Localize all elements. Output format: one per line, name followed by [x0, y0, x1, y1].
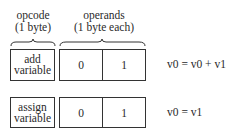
opcode-brace [10, 39, 56, 47]
opcode-box-add-variable: add variable [10, 49, 55, 81]
opcode-line2: variable [14, 65, 51, 76]
opcode-box-assign-variable: assign variable [10, 97, 55, 128]
operands-box: 0 1 [59, 97, 146, 128]
operands-header-size: (1 byte each) [62, 21, 146, 33]
operand-1: 1 [102, 50, 145, 80]
opcode-line1: assign [14, 102, 51, 113]
equation: v0 = v1 [167, 106, 202, 118]
equation: v0 = v0 + v1 [167, 58, 226, 70]
opcode-header-size: (1 byte) [6, 21, 60, 33]
opcode-header-label: opcode [6, 9, 60, 21]
operands-brace [59, 39, 146, 47]
operand-0: 0 [60, 98, 102, 127]
operand-0: 0 [60, 50, 102, 80]
operand-1: 1 [102, 98, 145, 127]
operands-header-label: operands [62, 9, 146, 21]
operands-box: 0 1 [59, 49, 146, 81]
operands-header: operands (1 byte each) [62, 9, 146, 33]
opcode-line2: variable [14, 113, 51, 124]
opcode-header: opcode (1 byte) [6, 9, 60, 33]
